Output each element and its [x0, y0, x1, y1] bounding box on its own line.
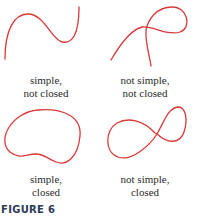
- caption-not-simple-not-closed: not simple, not closed: [100, 74, 190, 100]
- curve-not-simple-not-closed: [111, 7, 187, 66]
- curve-simple-closed: [5, 110, 80, 163]
- caption-line-2: not closed: [100, 87, 190, 100]
- caption-line-2: closed: [1, 186, 91, 199]
- caption-line-1: not simple,: [100, 173, 190, 186]
- caption-line-1: simple,: [1, 74, 91, 87]
- figure-label: FIGURE 6: [1, 204, 55, 215]
- caption-line-1: simple,: [1, 173, 91, 186]
- caption-line-1: not simple,: [100, 74, 190, 87]
- caption-not-simple-closed: not simple, closed: [100, 173, 190, 199]
- caption-simple-not-closed: simple, not closed: [1, 74, 91, 100]
- caption-line-2: closed: [100, 186, 190, 199]
- curve-not-simple-closed: [108, 107, 186, 158]
- caption-line-2: not closed: [1, 87, 91, 100]
- caption-simple-closed: simple, closed: [1, 173, 91, 199]
- curve-simple-not-closed: [5, 7, 79, 59]
